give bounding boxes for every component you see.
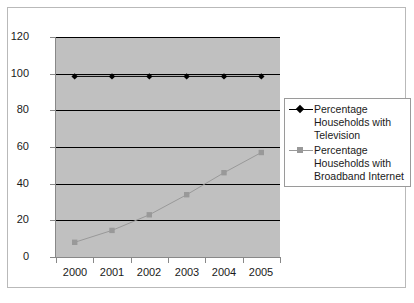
data-point-square [109,228,114,233]
diamond-marker-icon [288,104,314,116]
legend-item-label: Percentage Households with Broadband Int… [314,144,409,183]
chart-container: 020406080100120 200020012002200320042005… [0,0,414,303]
legend-item-label: Percentage Households with Television [314,103,409,142]
data-point-diamond [109,73,115,79]
square-marker-icon [288,145,314,157]
data-point-square [221,170,226,175]
legend-item-broadband: Percentage Households with Broadband Int… [288,144,409,183]
series-television [71,73,264,79]
data-point-diamond [71,73,77,79]
data-point-diamond [221,73,227,79]
chart-frame: 020406080100120 200020012002200320042005… [7,7,406,288]
data-point-diamond [183,73,189,79]
series-broadband [72,150,264,245]
data-point-square [72,240,77,245]
chart-legend: Percentage Households with Television Pe… [284,98,411,187]
data-point-diamond [146,73,152,79]
legend-item-television: Percentage Households with Television [288,103,409,142]
data-point-square [147,212,152,217]
series-line [75,153,262,243]
data-point-square [259,150,264,155]
data-point-square [184,192,189,197]
data-point-diamond [258,73,264,79]
